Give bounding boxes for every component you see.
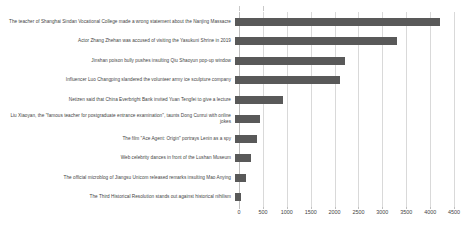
x-tick-label: 4000 — [424, 209, 436, 215]
chart-rows: The teacher of Shanghai Sindan Vocationa… — [0, 12, 466, 207]
category-label: The film "Ace Agent: Origin" portrays Le… — [0, 136, 235, 142]
chart-row: The teacher of Shanghai Sindan Vocationa… — [0, 12, 466, 32]
x-tick-label: 4500 — [448, 209, 460, 215]
bar-cell — [235, 71, 466, 91]
bar — [235, 154, 251, 162]
category-label: Liu Xiaoyan, the "famous teacher for pos… — [0, 113, 235, 126]
bar-cell — [235, 32, 466, 52]
category-label: The teacher of Shanghai Sindan Vocationa… — [0, 19, 235, 25]
x-tick-label: 500 — [258, 209, 267, 215]
x-tick-label: 3500 — [400, 209, 412, 215]
chart-row: Liu Xiaoyan, the "famous teacher for pos… — [0, 110, 466, 130]
bar-cell — [235, 168, 466, 188]
chart-row: Influencer Luo Changping slandered the v… — [0, 71, 466, 91]
bar — [235, 135, 257, 143]
bar — [235, 18, 440, 26]
bar — [235, 115, 260, 123]
bar-cell — [235, 90, 466, 110]
tick-stub — [263, 6, 264, 11]
tick-stub — [239, 6, 240, 11]
bar — [235, 96, 283, 104]
category-label: Jinshan poison bully pushes insulting Qi… — [0, 58, 235, 64]
chart-row: Web celebrity dances in front of the Lus… — [0, 149, 466, 169]
x-tick-label: 3000 — [376, 209, 388, 215]
category-label: The official microblog of Jiangsu Unicom… — [0, 175, 235, 181]
x-tick-label: 1500 — [305, 209, 317, 215]
x-tick-label: 0 — [238, 209, 241, 215]
chart-row: Jinshan poison bully pushes insulting Qi… — [0, 51, 466, 71]
bar-cell — [235, 188, 466, 208]
bar — [235, 193, 241, 201]
category-label: Actor Zhang Zhehan was accused of visiti… — [0, 38, 235, 44]
bar-cell — [235, 110, 466, 130]
bar-cell — [235, 149, 466, 169]
chart-row: The film "Ace Agent: Origin" portrays Le… — [0, 129, 466, 149]
bar — [235, 76, 340, 84]
x-tick-label: 2500 — [352, 209, 364, 215]
chart-row: Actor Zhang Zhehan was accused of visiti… — [0, 32, 466, 52]
bar — [235, 57, 345, 65]
category-label: Web celebrity dances in front of the Lus… — [0, 155, 235, 161]
bar-cell — [235, 129, 466, 149]
category-label: The Third Historical Resolution stands o… — [0, 194, 235, 200]
x-axis: 050010001500200025003000350040004500 — [239, 207, 466, 227]
chart-row: Netizen said that China Everbright Bank … — [0, 90, 466, 110]
bar-cell — [235, 12, 466, 32]
bar — [235, 174, 246, 182]
bar — [235, 37, 397, 45]
chart-row: The official microblog of Jiangsu Unicom… — [0, 168, 466, 188]
horizontal-bar-chart: The teacher of Shanghai Sindan Vocationa… — [0, 0, 476, 249]
chart-row: The Third Historical Resolution stands o… — [0, 188, 466, 208]
bar-cell — [235, 51, 466, 71]
x-tick-label: 1000 — [281, 209, 293, 215]
category-label: Netizen said that China Everbright Bank … — [0, 97, 235, 103]
category-label: Influencer Luo Changping slandered the v… — [0, 77, 235, 83]
x-tick-label: 2000 — [329, 209, 341, 215]
